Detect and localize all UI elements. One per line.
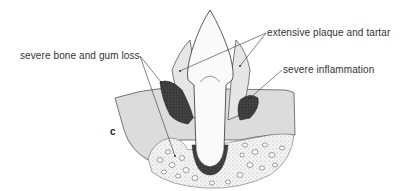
label-bone-gum-loss: severe bone and gum loss [20,50,140,61]
label-inflammation: severe inflammation [283,64,374,75]
panel-label: c [110,126,116,137]
label-plaque-tartar: extensive plaque and tartar [267,27,390,38]
